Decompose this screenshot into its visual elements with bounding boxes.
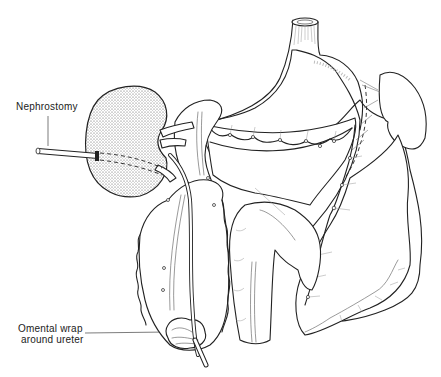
esophagus-opening: [292, 18, 318, 26]
esophagus-hatching: [294, 26, 315, 45]
nephrostomy-tube-opening: [36, 148, 40, 154]
kidney: [86, 86, 167, 197]
omental-wrap-leader-line: [85, 332, 168, 333]
illustration-canvas: [0, 0, 441, 377]
